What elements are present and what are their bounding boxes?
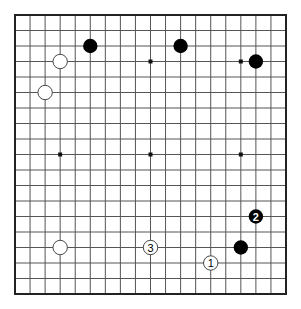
stone-shape bbox=[83, 39, 97, 53]
star-point bbox=[149, 60, 153, 64]
move-number-label: 3 bbox=[147, 242, 153, 254]
star-point bbox=[149, 153, 153, 157]
stone-shape bbox=[234, 240, 248, 254]
go-board: 123 bbox=[0, 0, 301, 309]
star-point bbox=[239, 153, 243, 157]
white-stone-1: 1 bbox=[204, 256, 218, 270]
black-stone-2: 2 bbox=[249, 209, 263, 223]
stone-shape bbox=[173, 39, 187, 53]
black-stone bbox=[173, 39, 187, 53]
black-stone bbox=[234, 240, 248, 254]
stone-shape bbox=[249, 54, 263, 68]
white-stone-3: 3 bbox=[143, 240, 157, 254]
stone-shape bbox=[53, 240, 67, 254]
black-stone bbox=[83, 39, 97, 53]
black-stone bbox=[249, 54, 263, 68]
move-number-label: 2 bbox=[253, 211, 259, 223]
stone-shape bbox=[38, 85, 52, 99]
star-point bbox=[239, 60, 243, 64]
white-stone bbox=[53, 240, 67, 254]
white-stone bbox=[53, 54, 67, 68]
move-number-label: 1 bbox=[208, 257, 214, 269]
star-point bbox=[58, 153, 62, 157]
white-stone bbox=[38, 85, 52, 99]
stone-shape bbox=[53, 54, 67, 68]
